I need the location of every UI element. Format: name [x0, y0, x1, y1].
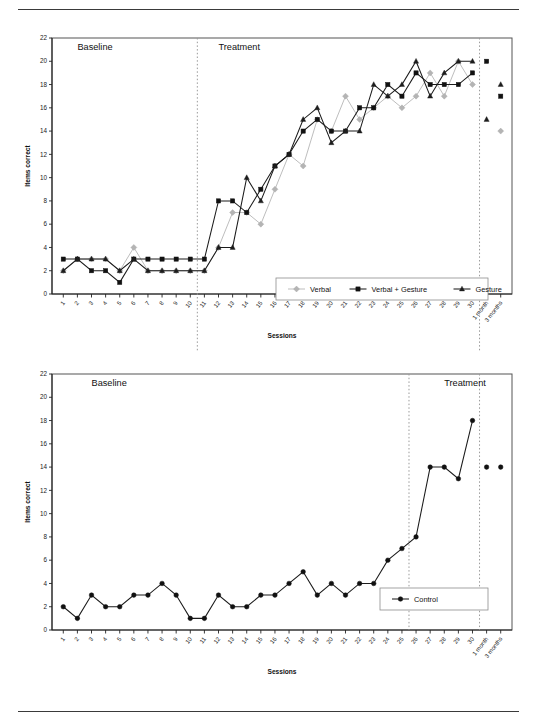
data-point-marker	[329, 129, 333, 133]
data-point-marker	[160, 257, 164, 261]
x-axis-tick-label: 27	[424, 635, 433, 644]
x-axis-tick-label: 6	[130, 299, 137, 306]
x-axis-tick-label: 28	[438, 299, 447, 308]
x-axis-tick-label: 20	[325, 635, 334, 644]
data-point-marker	[188, 616, 193, 621]
data-point-marker	[61, 604, 66, 609]
x-axis-tick-label: 15	[255, 635, 264, 644]
y-axis-tick-label: 14	[40, 127, 48, 134]
x-axis-tick-label: 23	[368, 635, 377, 644]
x-axis-tick-label: 23	[368, 299, 377, 308]
data-point-marker	[230, 604, 235, 609]
data-point-marker	[485, 59, 489, 63]
data-point-marker	[301, 129, 305, 133]
data-point-marker	[160, 581, 165, 586]
y-axis-tick-label: 20	[40, 57, 48, 64]
y-axis-tick-label: 10	[40, 510, 48, 517]
data-point-marker	[301, 570, 306, 575]
x-axis-title: Sessions	[268, 668, 297, 675]
x-axis-tick-label: 13	[227, 299, 236, 308]
data-point-marker	[386, 558, 391, 563]
control-chart-svg: 0246810121416182022123456789101112131415…	[0, 360, 537, 712]
data-point-marker	[357, 581, 362, 586]
x-axis-tick-label: 16	[269, 635, 278, 644]
y-axis-tick-label: 14	[40, 463, 48, 470]
data-point-marker	[216, 199, 220, 203]
data-point-marker	[244, 604, 249, 609]
x-axis-tick-label: 20	[325, 299, 334, 308]
data-point-marker	[75, 616, 80, 621]
x-axis-tick-label: 30	[466, 635, 475, 644]
data-point-marker	[146, 257, 150, 261]
x-axis-tick-label: 22	[354, 635, 363, 644]
x-axis-tick-label: 4	[102, 299, 109, 306]
y-axis-tick-label: 20	[40, 393, 48, 400]
x-axis-tick-label: 3	[88, 299, 95, 306]
x-axis-tick-label: 5	[116, 299, 123, 306]
y-axis-tick-label: 0	[43, 626, 47, 633]
data-point-marker	[117, 604, 122, 609]
x-axis-tick-label: 12	[212, 299, 221, 308]
phase-annotation-label: Baseline	[92, 378, 127, 388]
legend-label: Gesture	[476, 285, 502, 294]
data-point-marker	[245, 210, 249, 214]
data-point-marker	[315, 117, 319, 121]
data-point-marker	[456, 82, 460, 86]
legend-label: Verbal + Gesture	[372, 285, 428, 294]
x-axis-tick-label: 28	[438, 635, 447, 644]
data-point-marker	[146, 593, 151, 598]
data-point-marker	[498, 465, 503, 470]
data-point-marker	[343, 593, 348, 598]
x-axis-tick-label: 8	[158, 299, 165, 306]
data-point-marker	[272, 186, 278, 192]
series-line	[63, 73, 472, 282]
data-point-marker	[89, 593, 94, 598]
data-point-marker	[442, 82, 446, 86]
data-point-marker	[414, 535, 419, 540]
x-axis-tick-label: 1	[59, 635, 66, 642]
x-axis-tick-label: 12	[212, 635, 221, 644]
y-axis-tick-label: 8	[43, 533, 47, 540]
data-point-marker	[498, 82, 503, 87]
x-axis-tick-label: 8	[158, 635, 165, 642]
x-axis-tick-label: 24	[382, 299, 391, 308]
data-point-marker	[273, 593, 278, 598]
y-axis-tick-label: 16	[40, 104, 48, 111]
data-point-marker	[371, 581, 376, 586]
phase-annotation-label: Treatment	[219, 42, 261, 52]
x-axis-tick-label: 13	[227, 635, 236, 644]
y-axis-title: Items correct	[24, 144, 31, 186]
x-axis-tick-label: 19	[311, 299, 320, 308]
x-axis-tick-label: 6	[130, 635, 137, 642]
data-point-marker	[442, 465, 447, 470]
figure-page: 0246810121416182022123456789101112131415…	[0, 0, 537, 721]
legend-label: Control	[414, 595, 438, 604]
x-axis-tick-label: 7	[144, 635, 151, 642]
x-axis-tick-label: 17	[283, 299, 292, 308]
legend-marker-swatch	[398, 597, 403, 602]
x-axis-tick-label: 25	[396, 635, 405, 644]
data-point-marker	[287, 581, 292, 586]
y-axis-tick-label: 22	[40, 370, 48, 377]
x-axis-tick-label: 15	[255, 299, 264, 308]
data-point-marker	[499, 94, 503, 98]
data-point-marker	[188, 257, 192, 261]
x-axis-tick-label: 2	[73, 299, 80, 306]
x-axis-tick-label: 19	[311, 635, 320, 644]
x-axis-tick-label: 14	[241, 299, 250, 308]
data-point-marker	[498, 128, 504, 134]
data-point-marker	[315, 593, 320, 598]
x-axis-tick-label: 24	[382, 635, 391, 644]
x-axis-tick-label: 21	[339, 299, 348, 308]
data-point-marker	[427, 70, 433, 76]
x-axis-tick-label: 3	[88, 635, 95, 642]
data-point-marker	[61, 257, 65, 261]
data-point-marker	[329, 581, 334, 586]
data-point-marker	[231, 199, 235, 203]
y-axis-tick-label: 6	[43, 220, 47, 227]
data-point-marker	[470, 418, 475, 423]
x-axis-tick-label: 10	[184, 299, 193, 308]
data-point-marker	[315, 105, 320, 110]
x-axis-tick-label: 29	[452, 635, 461, 644]
data-point-marker	[484, 117, 489, 122]
